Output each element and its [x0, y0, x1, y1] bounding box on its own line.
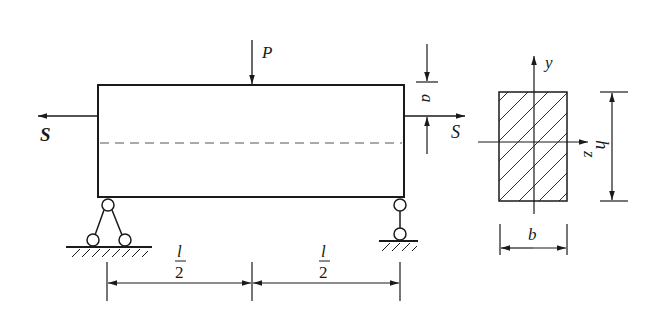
- cross-section: [478, 56, 589, 221]
- width-label: b: [528, 225, 537, 244]
- roller-support-right: [379, 199, 418, 251]
- point-load-label: P: [261, 43, 272, 62]
- span-right-denominator: 2: [319, 263, 328, 282]
- span-left-numerator: l: [177, 242, 182, 261]
- beam: [98, 85, 404, 197]
- ground-hatch-right: [382, 243, 417, 251]
- span-right-numerator: l: [321, 242, 326, 261]
- y-axis-label: y: [543, 53, 553, 72]
- axial-force-right-label: S: [451, 122, 460, 142]
- span-left-denominator: 2: [175, 263, 184, 282]
- axial-force-left-label: S: [40, 124, 51, 145]
- ground-hatch-left: [72, 249, 148, 257]
- beam-diagram: P S S a: [0, 0, 659, 335]
- height-label: h: [592, 140, 613, 150]
- span-dimension: [107, 261, 400, 301]
- section-hatch: [489, 81, 589, 221]
- eccentricity-label: a: [418, 94, 437, 103]
- pin-support-left: [66, 199, 152, 257]
- z-axis-label: z: [580, 150, 599, 158]
